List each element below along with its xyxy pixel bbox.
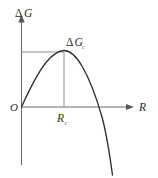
x-axis-label: R [138, 101, 146, 113]
y-axis-label-delta: Δ [15, 7, 22, 19]
y-axis [18, 15, 24, 166]
critical-radius-symbol: R [56, 112, 64, 124]
guide-lines [22, 52, 65, 107]
origin-label: O [10, 101, 18, 113]
free-energy-curve [22, 51, 113, 176]
x-axis [22, 104, 135, 110]
free-energy-vs-radius-chart: Δ G R O Δ G c R c [0, 0, 158, 178]
peak-label-delta: Δ [66, 36, 73, 48]
peak-label-subscript: c [82, 43, 85, 50]
critical-radius-annotation: R c [56, 112, 68, 126]
y-axis-label-symbol: G [24, 7, 33, 19]
y-axis-label: Δ G [15, 7, 33, 19]
nucleation-free-energy-figure: Δ G R O Δ G c R c [0, 0, 158, 178]
critical-radius-subscript: c [65, 119, 68, 126]
right-arrow-icon [126, 104, 134, 110]
peak-annotation: Δ G c [66, 36, 85, 50]
